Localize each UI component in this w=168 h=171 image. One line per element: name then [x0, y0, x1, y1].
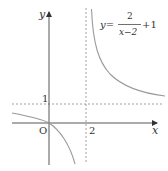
formula-numerator: 2	[127, 11, 133, 21]
y-axis-label: y	[38, 8, 46, 21]
curve-left-branch	[12, 113, 75, 164]
x-axis-label: x	[152, 124, 159, 137]
tick-label-1: 1	[42, 93, 48, 104]
function-formula: y= 2 x−2 +1	[99, 11, 157, 37]
origin-label: O	[39, 125, 47, 136]
hyperbola-graph: y x O 1 2 y= 2 x−2 +1	[0, 0, 168, 171]
tick-label-2: 2	[89, 125, 95, 136]
formula-suffix: +1	[142, 19, 157, 30]
formula-lhs: y=	[99, 19, 114, 30]
formula-denominator: x−2	[119, 27, 138, 37]
